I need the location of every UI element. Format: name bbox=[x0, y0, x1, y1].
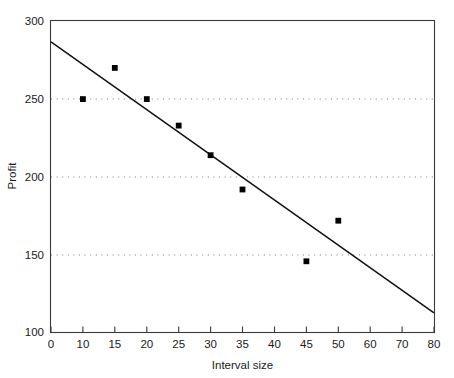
data-point-marker bbox=[240, 187, 246, 193]
x-tick-label-70: 70 bbox=[396, 338, 409, 350]
x-tick-label-50: 50 bbox=[332, 338, 345, 350]
x-tick-label-20: 20 bbox=[140, 338, 153, 350]
y-tick-label-300: 300 bbox=[25, 15, 44, 27]
x-tick-label-80: 80 bbox=[428, 338, 441, 350]
data-point-marker bbox=[112, 65, 118, 71]
x-tick-label-60: 60 bbox=[364, 338, 377, 350]
data-point-marker bbox=[144, 96, 150, 102]
x-tick-label-15: 15 bbox=[108, 338, 121, 350]
data-point-marker bbox=[304, 258, 310, 264]
x-tick-label-45: 45 bbox=[300, 338, 313, 350]
x-tick-label-35: 35 bbox=[236, 338, 249, 350]
scatter-chart-figure: 0 10 15 20 25 30 35 40 45 50 60 70 80 10… bbox=[0, 0, 454, 378]
x-tick-label-10: 10 bbox=[77, 338, 90, 350]
y-tick-label-200: 200 bbox=[25, 171, 44, 183]
y-axis-title: Profit bbox=[6, 162, 18, 190]
chart-background bbox=[0, 0, 454, 378]
data-point-marker bbox=[208, 152, 214, 158]
x-tick-label-0: 0 bbox=[48, 338, 54, 350]
data-point-marker bbox=[335, 218, 341, 224]
x-tick-label-30: 30 bbox=[204, 338, 217, 350]
y-tick-label-150: 150 bbox=[25, 249, 44, 261]
x-axis-title: Interval size bbox=[212, 359, 273, 371]
y-tick-label-250: 250 bbox=[25, 93, 44, 105]
data-point-marker bbox=[80, 96, 86, 102]
chart-canvas: 0 10 15 20 25 30 35 40 45 50 60 70 80 10… bbox=[0, 0, 454, 378]
x-tick-label-25: 25 bbox=[172, 338, 185, 350]
x-tick-label-40: 40 bbox=[268, 338, 281, 350]
data-point-marker bbox=[176, 123, 182, 129]
y-tick-label-100: 100 bbox=[25, 326, 44, 338]
